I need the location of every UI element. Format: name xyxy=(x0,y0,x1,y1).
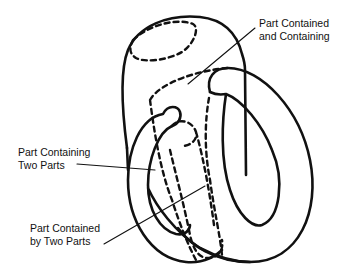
label-line: and Containing xyxy=(259,30,330,43)
innermost-part xyxy=(170,121,222,258)
label-part-contained-by-two-parts: Part Contained by Two Parts xyxy=(30,222,100,248)
label-line: by Two Parts xyxy=(30,235,100,248)
label-line: Part Contained xyxy=(259,17,330,30)
label-line: Part Contained xyxy=(30,222,100,235)
label-line: Part Containing xyxy=(18,146,90,159)
label-part-containing-two-parts: Part Containing Two Parts xyxy=(18,146,90,172)
label-line: Two Parts xyxy=(18,159,90,172)
leader-line-contained-by-two-parts xyxy=(104,186,205,244)
label-part-contained-and-containing: Part Contained and Containing xyxy=(259,17,330,43)
top-hidden-ellipse xyxy=(130,22,196,61)
